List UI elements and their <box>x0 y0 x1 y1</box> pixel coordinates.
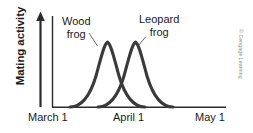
x-tick-label-april: April 1 <box>113 111 144 123</box>
curve-label-leopard-frog: Leopard frog <box>139 13 179 38</box>
mating-activity-figure: Mating activity March 1 April 1 May 1 Wo… <box>0 0 253 133</box>
curve-label-wood-frog: Wood frog <box>62 15 91 40</box>
x-tick-label-march: March 1 <box>28 111 68 123</box>
curve-label-wood-frog-line1: Wood <box>62 15 91 28</box>
curve-leopard-frog <box>98 42 173 107</box>
curve-wood-frog <box>70 42 145 107</box>
curve-label-wood-frog-line2: frog <box>62 28 91 41</box>
y-axis-label: Mating activity <box>14 0 26 94</box>
y-axis-arrow-icon <box>36 12 45 108</box>
x-tick-label-may: May 1 <box>195 111 225 123</box>
curve-label-leopard-frog-line2: frog <box>139 26 179 39</box>
leader-line-leopard-frog <box>138 37 146 46</box>
curve-label-leopard-frog-line1: Leopard <box>139 13 179 26</box>
copyright-credit: © Cengage Learning <box>238 29 244 101</box>
